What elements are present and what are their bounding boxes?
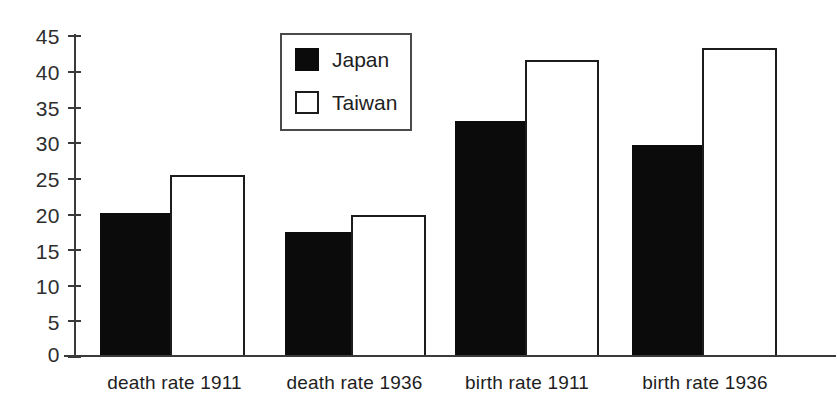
bar-taiwan-death-rate-1911: [170, 175, 245, 355]
outlined-square-swatch-icon: [295, 91, 319, 114]
y-tick-mark-25: [68, 178, 81, 180]
x-axis-line: [64, 355, 836, 357]
y-tick-label-45: 45: [26, 26, 60, 47]
bar-taiwan-birth-rate-1911: [525, 60, 599, 355]
y-tick-label-5: 5: [26, 312, 60, 333]
y-tick-label-35: 35: [26, 98, 60, 119]
y-tick-label-25: 25: [26, 169, 60, 190]
bar-japan-death-rate-1936: [285, 232, 351, 355]
legend-item-taiwan: Taiwan: [295, 91, 397, 114]
y-tick-label-40: 40: [26, 62, 60, 83]
chart-legend: Japan Taiwan: [280, 33, 412, 131]
category-label-birth-rate-1936: birth rate 1936: [625, 372, 785, 394]
y-tick-label-20: 20: [26, 205, 60, 226]
y-tick-mark-45: [68, 35, 81, 37]
y-axis-line: [74, 34, 76, 357]
category-label-death-rate-1911: death rate 1911: [92, 372, 257, 394]
bar-japan-birth-rate-1911: [455, 121, 525, 355]
bar-japan-death-rate-1911: [100, 213, 170, 355]
y-tick-label-10: 10: [26, 276, 60, 297]
y-tick-label-15: 15: [26, 241, 60, 262]
category-label-birth-rate-1911: birth rate 1911: [447, 372, 607, 394]
y-tick-mark-40: [68, 71, 81, 73]
y-tick-mark-30: [68, 142, 81, 144]
chart-figure: 45 40 35 30 25 20 15 10 5 0 death rate 1…: [0, 0, 837, 419]
bar-japan-birth-rate-1936: [632, 145, 702, 355]
legend-label-japan: Japan: [332, 49, 389, 70]
filled-square-swatch-icon: [295, 48, 319, 71]
y-tick-mark-10: [68, 285, 81, 287]
bar-taiwan-birth-rate-1936: [702, 48, 777, 355]
legend-item-japan: Japan: [295, 48, 389, 71]
y-tick-mark-15: [68, 249, 81, 251]
y-tick-label-0: 0: [26, 344, 60, 365]
y-tick-mark-5: [68, 320, 81, 322]
y-tick-mark-35: [68, 107, 81, 109]
legend-label-taiwan: Taiwan: [332, 92, 397, 113]
category-label-death-rate-1936: death rate 1936: [272, 372, 437, 394]
y-tick-label-30: 30: [26, 133, 60, 154]
y-tick-mark-20: [68, 214, 81, 216]
bar-taiwan-death-rate-1936: [351, 215, 426, 355]
y-tick-mark-0: [68, 356, 81, 358]
